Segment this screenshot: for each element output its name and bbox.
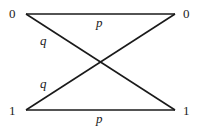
input-label-1: 1 [9,103,16,118]
output-label-1: 1 [183,103,190,118]
input-label-0: 0 [9,6,16,21]
edge-label-q-lower: q [40,76,47,91]
bsc-diagram: 0 1 0 1 p p q q [0,0,199,127]
edge-label-p-bottom: p [95,111,103,126]
edge-label-q-upper: q [40,33,47,48]
output-label-0: 0 [183,6,190,21]
edge-label-p-top: p [95,15,103,30]
